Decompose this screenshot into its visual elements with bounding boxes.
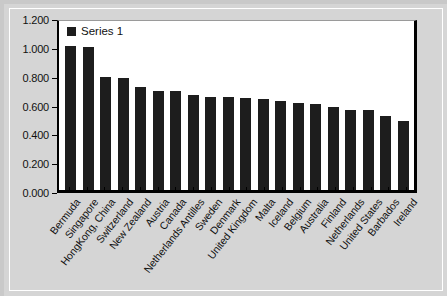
bar[interactable] bbox=[153, 91, 164, 190]
x-axis-tick-mark bbox=[353, 187, 354, 193]
x-axis-tick-mark bbox=[406, 187, 407, 193]
bar[interactable] bbox=[170, 91, 181, 190]
bar-slot bbox=[132, 21, 150, 190]
bar[interactable] bbox=[398, 121, 409, 190]
bar-slot bbox=[255, 21, 273, 190]
legend-swatch-series-1 bbox=[67, 27, 76, 36]
bars-layer bbox=[59, 21, 414, 190]
x-axis-tick-mark bbox=[211, 187, 212, 193]
bar-slot bbox=[395, 21, 413, 190]
bar-slot bbox=[115, 21, 133, 190]
y-axis-tick-label: 1.000 bbox=[22, 43, 49, 55]
x-axis-tick-mark bbox=[104, 187, 105, 193]
bar-slot bbox=[185, 21, 203, 190]
bar-slot bbox=[150, 21, 168, 190]
y-axis: 1.2001.0000.8000.6000.4000.2000.000 bbox=[0, 0, 57, 193]
x-axis-tick-mark bbox=[175, 187, 176, 193]
bar-slot bbox=[62, 21, 80, 190]
bar-slot bbox=[220, 21, 238, 190]
bar-slot bbox=[360, 21, 378, 190]
y-axis-tick-label: 0.600 bbox=[22, 101, 49, 113]
bar[interactable] bbox=[363, 110, 374, 190]
bar[interactable] bbox=[188, 95, 199, 190]
y-axis-tick-label: 1.200 bbox=[22, 14, 49, 26]
bar-slot bbox=[377, 21, 395, 190]
y-axis-tick-label: 0.000 bbox=[22, 187, 49, 199]
bar-slot bbox=[307, 21, 325, 190]
x-axis-tick-mark bbox=[229, 187, 230, 193]
bar[interactable] bbox=[205, 97, 216, 190]
x-axis-tick-mark bbox=[282, 187, 283, 193]
plot-area bbox=[57, 20, 417, 193]
bar-slot bbox=[237, 21, 255, 190]
x-axis-tick-mark bbox=[87, 187, 88, 193]
x-axis-tick-mark bbox=[69, 187, 70, 193]
x-axis-tick-mark bbox=[158, 187, 159, 193]
bar[interactable] bbox=[310, 104, 321, 191]
bar[interactable] bbox=[118, 78, 129, 190]
legend-label-series-1: Series 1 bbox=[81, 25, 123, 37]
bar[interactable] bbox=[345, 110, 356, 190]
x-axis-tick-mark bbox=[264, 187, 265, 193]
x-axis-tick-mark bbox=[388, 187, 389, 193]
bar[interactable] bbox=[293, 103, 304, 190]
bar-chart: 1.2001.0000.8000.6000.4000.2000.000 Seri… bbox=[0, 0, 447, 296]
bar[interactable] bbox=[135, 87, 146, 190]
bar-slot bbox=[202, 21, 220, 190]
bar-slot bbox=[167, 21, 185, 190]
bar[interactable] bbox=[223, 97, 234, 190]
x-axis-tick-mark bbox=[317, 187, 318, 193]
bar[interactable] bbox=[258, 99, 269, 190]
bar-slot bbox=[290, 21, 308, 190]
bar-slot bbox=[272, 21, 290, 190]
x-axis-tick-mark bbox=[300, 187, 301, 193]
bar[interactable] bbox=[328, 107, 339, 190]
x-axis-tick-mark bbox=[193, 187, 194, 193]
x-axis-tick-mark bbox=[122, 187, 123, 193]
y-axis-tick-label: 0.200 bbox=[22, 158, 49, 170]
bar[interactable] bbox=[380, 116, 391, 190]
legend: Series 1 bbox=[64, 24, 126, 38]
bar-slot bbox=[342, 21, 360, 190]
bar-slot bbox=[97, 21, 115, 190]
x-axis-tick-mark bbox=[140, 187, 141, 193]
x-axis: BermudaSingaporeHongKong, ChinaSwitzerla… bbox=[57, 193, 417, 293]
bar[interactable] bbox=[240, 98, 251, 190]
x-axis-tick-mark bbox=[246, 187, 247, 193]
bar[interactable] bbox=[275, 101, 286, 190]
x-axis-tick-mark bbox=[371, 187, 372, 193]
bar-slot bbox=[325, 21, 343, 190]
bar[interactable] bbox=[100, 77, 111, 190]
x-axis-tick-mark bbox=[335, 187, 336, 193]
bar-slot bbox=[80, 21, 98, 190]
bar[interactable] bbox=[83, 47, 94, 190]
y-axis-tick-label: 0.800 bbox=[22, 72, 49, 84]
y-axis-tick-label: 0.400 bbox=[22, 129, 49, 141]
bar[interactable] bbox=[65, 46, 76, 190]
